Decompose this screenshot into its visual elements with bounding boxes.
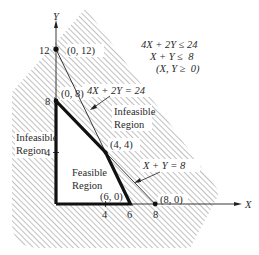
x-axis-arrow-icon xyxy=(234,202,242,206)
label-x-y-8: X + Y = 8 xyxy=(142,160,186,171)
point-0-8 xyxy=(54,99,59,104)
y-axis-label: Y xyxy=(53,11,60,22)
point-label-0-8: (0, 8) xyxy=(61,88,84,100)
point-label-6-0: (6, 0) xyxy=(100,191,123,203)
x-tick-label-8: 8 xyxy=(153,209,158,220)
x-tick-label-6: 6 xyxy=(127,209,132,220)
feasible-label-1: Feasible xyxy=(72,167,107,178)
infeasible-right-label-2: Region xyxy=(114,119,145,130)
y-tick-label-8: 8 xyxy=(45,96,50,107)
infeasible-right-label-1: Infeasible xyxy=(114,106,156,117)
point-8-0 xyxy=(153,202,158,207)
point-4-4 xyxy=(104,151,108,155)
point-0-12 xyxy=(53,47,58,52)
x-tick-label-4: 4 xyxy=(102,209,108,220)
infeasible-left-label-2: Region xyxy=(16,145,47,156)
infeasible-left-label-1: Infeasible xyxy=(16,132,58,143)
label-4x-2y-24: 4X + 2Y = 24 xyxy=(87,85,146,96)
constraint-line-2: X + Y ≤ 8 xyxy=(149,51,194,62)
feasible-label-2: Region xyxy=(72,180,103,191)
point-label-8-0: (8, 0) xyxy=(160,194,183,206)
constraint-line-1: 4X + 2Y ≤ 24 xyxy=(141,39,198,50)
point-label-4-4: (4, 4) xyxy=(110,139,133,151)
constraint-line-3: (X, Y ≥ 0) xyxy=(156,63,200,75)
point-label-0-12: (0, 12) xyxy=(67,45,95,57)
x-axis-label: X xyxy=(244,199,252,210)
y-tick-label-12: 12 xyxy=(39,45,50,56)
lp-diagram: Y X 4 8 12 4 6 8 (0, 12) (0, 8) (4, 4) (… xyxy=(0,0,259,255)
